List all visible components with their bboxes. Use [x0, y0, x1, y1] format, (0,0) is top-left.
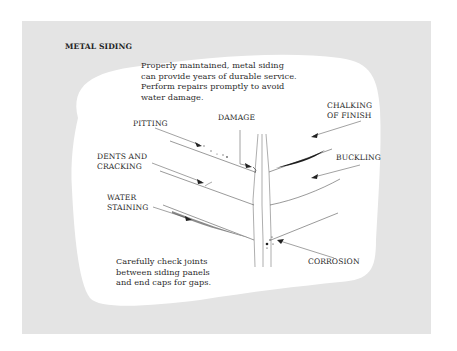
intro-line: Properly maintained, metal siding: [141, 60, 297, 71]
label-dents-line: DENTS AND: [97, 152, 147, 162]
intro-line: Perform repairs promptly to avoid: [141, 81, 297, 92]
label-corrosion: CORROSION: [308, 257, 360, 267]
label-chalking-line: OF FINISH: [327, 111, 372, 121]
note-line: Carefully check joints: [116, 256, 211, 267]
label-buckling: BUCKLING: [336, 153, 381, 163]
note-line: and end caps for gaps.: [116, 277, 211, 288]
note-text: Carefully check joints between siding pa…: [116, 256, 211, 288]
label-damage: DAMAGE: [218, 113, 255, 123]
label-water-staining-line: STAINING: [107, 203, 149, 213]
label-water-staining-line: WATER: [107, 193, 149, 203]
page-title: METAL SIDING: [65, 42, 132, 51]
label-chalking: CHALKING OF FINISH: [327, 101, 372, 121]
label-chalking-line: CHALKING: [327, 101, 372, 111]
intro-line: water damage.: [141, 92, 297, 103]
note-line: between siding panels: [116, 267, 211, 278]
intro-line: can provide years of durable service.: [141, 71, 297, 82]
siding-illustration: [0, 0, 457, 351]
label-pitting: PITTING: [133, 119, 168, 129]
label-dents-line: CRACKING: [97, 162, 147, 172]
intro-text: Properly maintained, metal siding can pr…: [141, 60, 297, 103]
label-dents: DENTS AND CRACKING: [97, 152, 147, 172]
label-water-staining: WATER STAINING: [107, 193, 149, 213]
